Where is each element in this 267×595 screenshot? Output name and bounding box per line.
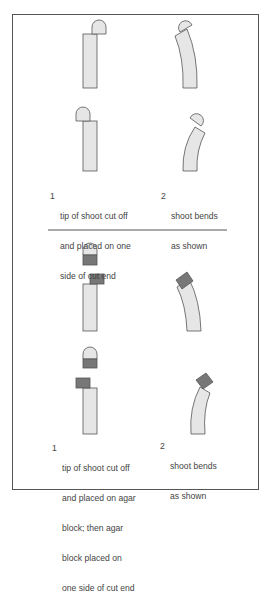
caption-line: one side of cut end [62,583,136,593]
caption-line: side of cut end [60,271,131,281]
bent-shoot-1 [175,21,197,88]
bent-shoot-with-agar-2 [191,373,213,434]
stem-with-agar-block-2 [76,378,97,434]
step-number: 1 [50,191,55,201]
tip-on-agar-block-2 [83,347,97,368]
straight-shoot-with-tip-2 [76,107,97,171]
caption-line: block placed on [62,553,136,563]
caption-line: tip of shoot cut off [62,463,136,473]
step-number: 2 [160,441,165,451]
bent-shoot-with-agar-1 [176,272,201,331]
caption-line: shoot bends [171,211,218,221]
caption-line: block; then agar [62,523,136,533]
step-number: 2 [161,191,166,201]
caption-line: as shown [170,491,217,501]
caption-line: and placed on one [60,241,131,251]
caption-line: as shown [171,241,218,251]
caption-line: and placed on agar [62,493,136,503]
top-step2-caption: shoot bends as shown [171,191,218,261]
top-step1-caption: tip of shoot cut off and placed on one s… [60,191,131,291]
caption-line: shoot bends [170,461,217,471]
bent-shoot-2 [183,114,205,171]
straight-shoot-with-tip-1 [83,20,106,88]
bottom-step2-caption: shoot bends as shown [170,441,217,511]
caption-line: tip of shoot cut off [60,211,131,221]
bottom-step1-caption: tip of shoot cut off and placed on agar … [62,443,136,595]
step-number: 1 [52,443,57,453]
